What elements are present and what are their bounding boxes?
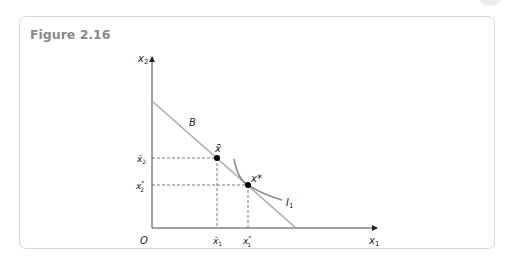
budget-line (152, 101, 296, 228)
y-tick-x-star-2: x*2 (135, 179, 144, 193)
x-axis-label: x1 (368, 235, 379, 248)
point-x-bar (214, 155, 220, 161)
origin-label: O (140, 235, 148, 246)
x-star-label: x* (250, 173, 262, 184)
y-axis-label: x2 (137, 53, 148, 66)
x-tick-x-star-1: x*1 (242, 234, 251, 248)
y-tick-x-bar-2: x̄2 (136, 154, 146, 165)
x-bar-label: x̄ (214, 143, 221, 154)
guide-lines (152, 158, 248, 228)
x-tick-x-bar-1: x̄1 (212, 236, 222, 247)
budget-label: B (189, 117, 196, 128)
consumer-choice-diagram: x2 x1 O B I1 x̄ x* x̄2 x*2 x̄1 x*1 (0, 0, 514, 264)
indifference-label: I1 (286, 197, 293, 210)
